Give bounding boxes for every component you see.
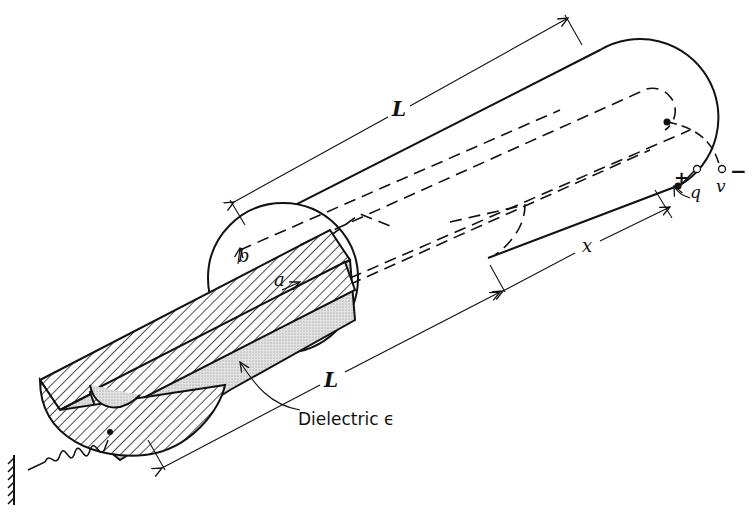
label-L-top: L: [391, 97, 406, 121]
label-L-bottom: L: [323, 368, 338, 392]
minus-terminal: [719, 166, 726, 173]
label-b: b: [238, 245, 250, 266]
label-x: x: [582, 235, 592, 256]
label-a: a: [274, 269, 285, 290]
label-plus: +: [674, 167, 689, 188]
label-q: q: [690, 182, 701, 202]
label-dielectric: Dielectric ϵ: [298, 409, 394, 429]
coaxial-capacitor-diagram: L L x b a Dielectric ϵ + q v −: [0, 0, 755, 513]
plus-terminal: [694, 166, 701, 173]
inner-terminal-dot: [664, 119, 671, 126]
label-minus: −: [730, 159, 747, 183]
spring-attachment-dot: [107, 429, 113, 435]
label-v: v: [716, 176, 726, 196]
